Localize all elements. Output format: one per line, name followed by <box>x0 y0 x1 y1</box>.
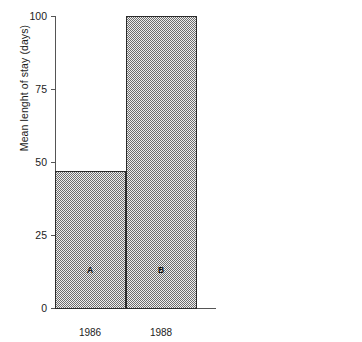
y-tick-label-0: 0 <box>1 303 47 313</box>
y-tick-label-75: 75 <box>1 84 47 94</box>
y-tick-label-100: 100 <box>1 11 47 21</box>
y-tick-mark-75 <box>51 89 55 90</box>
y-tick-mark-100 <box>51 16 55 17</box>
bar-1986 <box>55 171 126 309</box>
y-tick-mark-50 <box>51 162 55 163</box>
y-tick-label-25: 25 <box>1 230 47 240</box>
bar-label-a: A <box>83 266 97 275</box>
bar-label-b: B <box>154 266 168 275</box>
bar-chart: Mean lenght of stay (days) 100 75 50 25 … <box>0 0 362 342</box>
y-tick-label-50: 50 <box>1 157 47 167</box>
x-category-label-1986: 1986 <box>60 327 120 338</box>
x-category-label-1988: 1988 <box>131 327 191 338</box>
